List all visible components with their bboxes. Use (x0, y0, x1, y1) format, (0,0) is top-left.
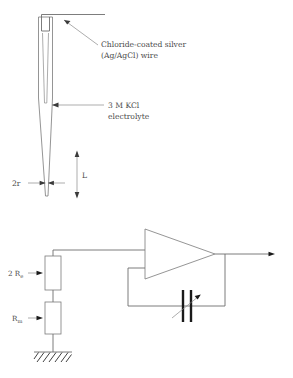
electrolyte-label-line2: electrolyte (108, 112, 150, 121)
wire-label-line1: Chloride-coated silver (101, 40, 186, 49)
figure-canvas: Chloride-coated silver (Ag/AgCl) wire 3 … (0, 0, 293, 378)
resistor-electrode-arrowhead (37, 271, 44, 276)
length-arrow-bottom (75, 192, 80, 199)
resistor-membrane-body (45, 302, 61, 334)
electrode-diagram: Chloride-coated silver (Ag/AgCl) wire 3 … (12, 15, 186, 199)
pipette-wall-left (39, 17, 46, 196)
length-label: L (82, 171, 87, 180)
opamp-triangle (145, 229, 215, 279)
pipette-wall-right (48, 17, 53, 196)
output-arrowhead (269, 252, 276, 257)
resistor-membrane-label: Rm (12, 314, 22, 324)
resistor-electrode-label: 2 Re (8, 269, 23, 279)
electrolyte-column (43, 33, 49, 103)
wire-leader-line (64, 20, 98, 45)
electrolyte-label-line1: 3 M KCl (108, 101, 140, 110)
electrolyte-leader-arrowhead (52, 103, 59, 108)
wire-label-line2: (Ag/AgCl) wire (101, 51, 158, 60)
circuit-diagram: 2 Re Rm (8, 229, 275, 362)
capacitor-variable-arrow-line (172, 296, 199, 318)
figure-root: Chloride-coated silver (Ag/AgCl) wire 3 … (0, 0, 293, 378)
length-arrow-top (75, 151, 80, 158)
diameter-label: 2r (12, 179, 21, 188)
ground-hatching (34, 353, 72, 363)
opamp-feedback-input-wire (128, 268, 145, 306)
resistor-electrode-body (45, 256, 61, 290)
resistor-membrane-arrowhead (37, 316, 44, 321)
